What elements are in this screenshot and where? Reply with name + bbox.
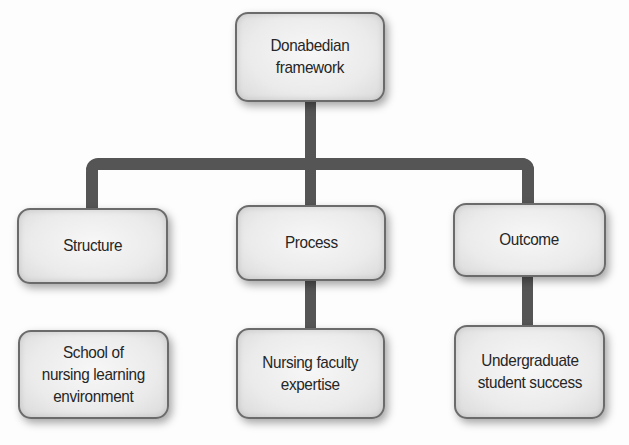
connector-process-to-detail: [305, 278, 316, 330]
diagram-canvas: Donabedian framework Structure Process O…: [0, 0, 629, 445]
node-label: Process: [285, 232, 338, 254]
connector-root-to-bus: [305, 100, 316, 166]
node-process: Process: [236, 205, 386, 281]
node-donabedian-framework: Donabedian framework: [235, 12, 385, 102]
connector-bus-to-structure: [86, 160, 98, 210]
connector-outcome-to-detail: [522, 274, 533, 327]
node-outcome: Outcome: [453, 203, 606, 277]
node-label: Outcome: [500, 229, 560, 251]
node-label: Structure: [63, 235, 122, 257]
node-label: Donabedian framework: [271, 35, 350, 79]
node-undergraduate-student-success: Undergraduate student success: [454, 325, 605, 419]
node-structure: Structure: [17, 208, 168, 284]
node-nursing-faculty-expertise: Nursing faculty expertise: [236, 328, 385, 419]
connector-bus-to-outcome: [522, 158, 534, 206]
node-label: School of nursing learning environment: [42, 342, 145, 408]
node-label: Undergraduate student success: [477, 350, 581, 394]
node-label: Nursing faculty expertise: [263, 352, 359, 396]
connector-bus-to-process: [305, 166, 316, 208]
node-school-of-nursing-learning-environment: School of nursing learning environment: [18, 330, 169, 419]
